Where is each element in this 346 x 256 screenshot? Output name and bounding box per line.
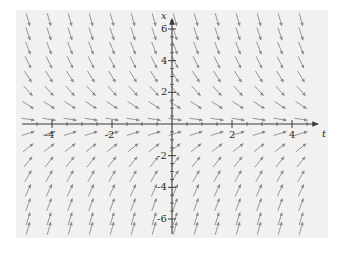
slope-arrow [87, 157, 95, 167]
slope-arrow [299, 199, 304, 211]
slope-arrow [68, 199, 73, 211]
slope-arrow [276, 157, 284, 167]
slope-arrow [274, 118, 287, 120]
slope-arrow [275, 144, 285, 152]
slope-arrow [254, 102, 265, 109]
slope-arrow [68, 28, 72, 40]
slope-field-figure: -4-224642-2-4-6xt [0, 0, 346, 256]
slope-arrow [278, 42, 283, 54]
slope-arrow [131, 42, 136, 54]
slope-arrow [278, 13, 282, 26]
slope-arrow [67, 171, 73, 182]
slope-arrow [152, 42, 157, 54]
slope-arrow [214, 71, 221, 82]
slope-arrow [173, 42, 178, 54]
slope-arrow [65, 102, 76, 109]
slope-arrow [26, 28, 30, 40]
slope-arrow [47, 42, 52, 54]
slope-arrow [108, 157, 116, 167]
slope-arrow [129, 157, 137, 167]
slope-arrow [107, 144, 117, 152]
slope-arrow [236, 199, 241, 211]
slope-arrow [24, 157, 32, 167]
slope-arrow [295, 118, 308, 120]
slope-arrow [65, 144, 75, 152]
slope-arrow [106, 118, 119, 120]
slope-arrow [44, 102, 55, 109]
axes-group [22, 19, 318, 234]
slope-arrow [88, 71, 95, 82]
slope-arrow [214, 56, 220, 68]
slope-arrow [256, 71, 263, 82]
slope-arrow [172, 56, 178, 68]
slope-arrow [152, 199, 157, 211]
y-tick-label: 6 [161, 24, 167, 34]
slope-arrow [299, 42, 304, 54]
slope-arrow [25, 56, 31, 68]
slope-arrow [108, 86, 117, 96]
slope-arrow [64, 118, 77, 120]
slope-arrow [233, 144, 243, 152]
slope-arrow [255, 86, 264, 96]
slope-arrow [276, 86, 285, 96]
slope-arrow [277, 71, 284, 82]
slope-arrow [151, 56, 157, 68]
slope-arrow [256, 171, 262, 182]
slope-arrow [47, 28, 51, 40]
slope-arrow [194, 199, 199, 211]
x-tick-label: 4 [289, 130, 295, 140]
slope-arrow [47, 199, 52, 211]
slope-arrow [128, 144, 138, 152]
slope-arrow [190, 118, 203, 120]
slope-arrow [298, 185, 303, 197]
slope-arrow [129, 86, 138, 96]
slope-arrow [25, 171, 31, 182]
slope-arrow [257, 199, 262, 211]
slope-arrow [26, 42, 31, 54]
slope-arrow [235, 71, 242, 82]
slope-arrow [110, 42, 115, 54]
slope-arrow [298, 171, 304, 182]
slope-arrow [22, 118, 35, 120]
slope-arrow [234, 157, 242, 167]
slope-arrow [170, 102, 181, 109]
slope-arrow [25, 185, 30, 197]
slope-arrow [215, 13, 219, 26]
slope-arrow [67, 71, 74, 82]
slope-arrow [214, 185, 219, 197]
slope-arrow [211, 118, 224, 120]
slope-arrow [190, 132, 202, 136]
slope-arrow [256, 56, 262, 68]
slope-arrow [128, 102, 139, 109]
x-tick-label: -4 [45, 130, 55, 140]
slope-arrow [212, 144, 222, 152]
y-tick-label: 2 [161, 87, 167, 97]
slope-arrow [299, 28, 303, 40]
slope-arrow [148, 132, 160, 136]
slope-arrow [87, 86, 96, 96]
slope-arrow [297, 157, 305, 167]
slope-arrow [297, 86, 306, 96]
slope-arrow [127, 132, 139, 136]
slope-arrow [26, 13, 30, 26]
slope-arrow [193, 185, 198, 197]
x-axis-title: t [322, 129, 326, 139]
slope-arrow [232, 118, 245, 120]
slope-arrow [131, 199, 136, 211]
slope-arrow [107, 102, 118, 109]
slope-arrow [172, 185, 177, 197]
slope-arrow [47, 13, 51, 26]
slope-arrow [214, 171, 220, 182]
slope-arrow [257, 42, 262, 54]
slope-arrow [277, 185, 282, 197]
slope-arrow [66, 86, 75, 96]
slope-arrow [298, 71, 305, 82]
slope-arrow [89, 42, 94, 54]
slope-arrow [86, 144, 96, 152]
slope-arrow [173, 199, 178, 211]
slope-arrow [88, 56, 94, 68]
slope-arrow [275, 102, 286, 109]
slope-arrow [150, 86, 159, 96]
slope-arrow [151, 171, 157, 182]
slope-arrow [211, 132, 223, 136]
